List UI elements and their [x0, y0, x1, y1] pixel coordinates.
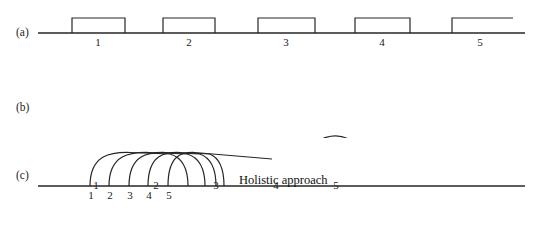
panel-c-tick-3: 3	[121, 189, 139, 201]
panel-b-contiguous-arches: (b) 12345	[0, 68, 541, 138]
arch-1	[90, 152, 188, 186]
arch-2	[109, 152, 205, 186]
pulse-outline-2	[163, 18, 215, 33]
holistic-approach-annotation: Holistic approach	[239, 173, 328, 188]
pulse-5	[452, 18, 513, 33]
panel-a-tick-4: 4	[372, 36, 392, 48]
panel-c-tick-5: 5	[160, 189, 178, 201]
three-panel-process-diagram: (a) 12345 (b) 12345 (c) 12345 Holistic a…	[0, 0, 541, 227]
panel-a-tick-1: 1	[88, 36, 108, 48]
panel-c-overlapping-arches: (c) 12345 Holistic approach	[0, 138, 541, 227]
panel-a-tick-5: 5	[470, 36, 490, 48]
panel-c-tick-4: 4	[140, 189, 158, 201]
pulse-outline-3	[258, 18, 315, 33]
pulse-2	[163, 18, 215, 33]
panel-a-tick-2: 2	[179, 36, 199, 48]
pulse-1	[72, 18, 125, 33]
panel-c-tick-1: 1	[82, 189, 100, 201]
pulse-4	[355, 18, 410, 33]
pulse-outline-4	[355, 18, 410, 33]
pulse-3	[258, 18, 315, 33]
pulse-outline-1	[72, 18, 125, 33]
panel-b-graphic	[0, 68, 541, 138]
panel-a-tick-labels: 12345	[0, 36, 541, 52]
panel-c-tick-2: 2	[101, 189, 119, 201]
panel-a-sequential-pulses: (a) 12345	[0, 0, 541, 68]
panel-a-tick-3: 3	[276, 36, 296, 48]
panel-c-tick-labels: 12345	[0, 189, 541, 205]
panel-a-graphic	[0, 0, 541, 68]
pulse-outline-open-5	[452, 18, 513, 33]
